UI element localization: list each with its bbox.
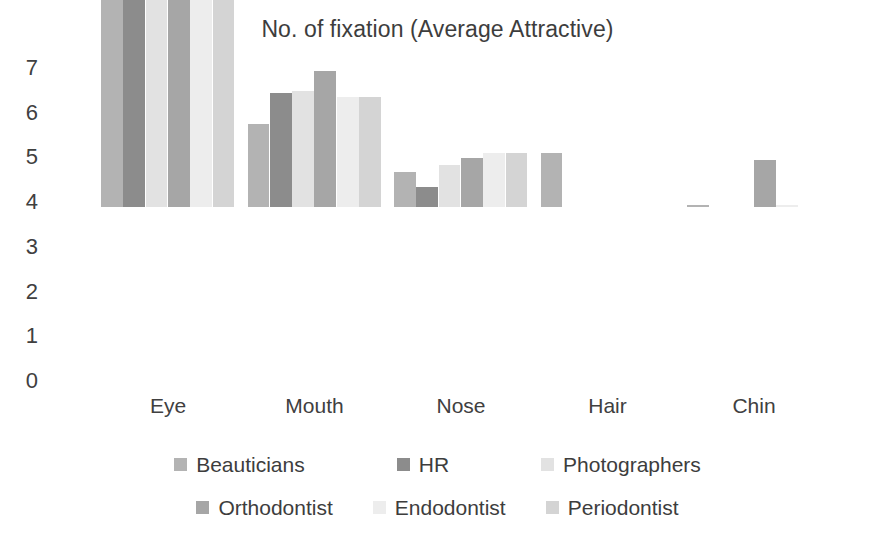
x-axis-tick-label: Eye	[108, 393, 228, 418]
bar[interactable]	[123, 0, 145, 207]
legend-swatch-icon	[196, 501, 209, 514]
x-axis: EyeMouthNoseHairChin	[0, 393, 875, 423]
bar-group-nose	[394, 0, 528, 207]
bar-group-chin	[687, 0, 821, 207]
bar[interactable]	[337, 97, 359, 207]
bar[interactable]	[439, 165, 461, 207]
legend-label: HR	[419, 454, 449, 475]
bar[interactable]	[461, 158, 483, 207]
bar[interactable]	[687, 205, 709, 207]
y-axis-tick-label: 3	[8, 236, 38, 258]
legend-item-beauticians[interactable]: Beauticians	[174, 454, 305, 475]
legend-item-orthodontist[interactable]: Orthodontist	[196, 497, 332, 518]
bar-group-mouth	[248, 0, 382, 207]
legend-swatch-icon	[546, 501, 559, 514]
y-axis-tick-label: 0	[8, 370, 38, 392]
legend-item-endodontist[interactable]: Endodontist	[373, 497, 506, 518]
bar[interactable]	[359, 97, 381, 207]
bar[interactable]	[248, 124, 270, 207]
bar[interactable]	[168, 0, 190, 207]
chart-legend: BeauticiansHRPhotographersOrthodontistEn…	[0, 443, 875, 529]
legend-item-hr[interactable]: HR	[397, 454, 449, 475]
legend-label: Periodontist	[568, 497, 679, 518]
bar[interactable]	[506, 153, 528, 207]
bar[interactable]	[292, 91, 314, 207]
y-axis-tick-label: 5	[8, 146, 38, 168]
bar[interactable]	[101, 0, 123, 207]
x-axis-tick-label: Nose	[401, 393, 521, 418]
bar-group-eye	[101, 0, 235, 207]
legend-swatch-icon	[397, 458, 410, 471]
bar-chart: No. of fixation (Average Attractive) 765…	[0, 0, 875, 555]
legend-item-photographers[interactable]: Photographers	[541, 454, 701, 475]
x-axis-tick-label: Mouth	[255, 393, 375, 418]
legend-swatch-icon	[541, 458, 554, 471]
bar[interactable]	[394, 172, 416, 207]
legend-label: Orthodontist	[218, 497, 332, 518]
y-axis-tick-label: 1	[8, 325, 38, 347]
x-axis-tick-label: Hair	[548, 393, 668, 418]
x-axis-tick-label: Chin	[694, 393, 814, 418]
legend-row: BeauticiansHRPhotographers	[0, 443, 875, 486]
bar[interactable]	[190, 0, 212, 207]
legend-label: Endodontist	[395, 497, 506, 518]
y-axis-tick-label: 2	[8, 281, 38, 303]
bar[interactable]	[416, 187, 438, 207]
plot-area	[95, 0, 855, 381]
y-axis-tick-label: 7	[8, 57, 38, 79]
legend-swatch-icon	[174, 458, 187, 471]
legend-label: Photographers	[563, 454, 701, 475]
bar[interactable]	[754, 160, 776, 207]
bar[interactable]	[146, 0, 168, 207]
legend-item-periodontist[interactable]: Periodontist	[546, 497, 679, 518]
bar[interactable]	[270, 93, 292, 207]
legend-row: OrthodontistEndodontistPeriodontist	[0, 486, 875, 529]
y-axis: 76543210	[0, 0, 95, 445]
y-axis-tick-label: 6	[8, 102, 38, 124]
y-axis-tick-label: 4	[8, 191, 38, 213]
bar[interactable]	[483, 153, 505, 207]
legend-label: Beauticians	[196, 454, 305, 475]
legend-swatch-icon	[373, 501, 386, 514]
bar[interactable]	[776, 205, 798, 207]
bar[interactable]	[213, 0, 235, 207]
bar-group-hair	[541, 0, 675, 207]
bar[interactable]	[541, 153, 563, 207]
bar[interactable]	[314, 71, 336, 207]
